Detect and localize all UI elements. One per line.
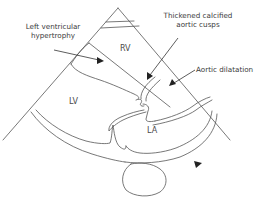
label-lv-hypertrophy-line2: hypertrophy: [22, 31, 84, 40]
lvh-arrowhead: [97, 57, 104, 64]
aortic-posterior-wall-1: [155, 97, 210, 121]
aortic-cusp-2: [143, 104, 155, 122]
label-aortic-dilatation: Aortic dilatation: [196, 65, 253, 74]
label-calcified-cusps: Thickened calcified aortic cusps: [160, 11, 236, 29]
aortic-dilatation-arrow-line: [174, 70, 195, 83]
aortic-cusp: [136, 99, 144, 106]
aortic-root-anterior-1: [141, 77, 155, 99]
chamber-label-lv: LV: [69, 97, 78, 106]
lvh-arrow-line: [54, 50, 99, 60]
label-lv-hypertrophy-line1: Left ventricular: [22, 22, 84, 31]
septum-lower: [71, 64, 139, 99]
chamber-label-la: LA: [147, 126, 157, 135]
pericardium-marker: [194, 161, 202, 168]
descending-aorta: [123, 163, 166, 196]
label-calcified-cusps-line2: aortic cusps: [160, 20, 236, 29]
echo-diagram: Left ventricular hypertrophy Thickened c…: [0, 0, 254, 200]
label-lv-hypertrophy: Left ventricular hypertrophy: [22, 22, 84, 40]
label-calcified-cusps-line1: Thickened calcified: [160, 11, 236, 20]
la-wall-outer: [125, 114, 217, 163]
mitral-leaflet-anterior: [109, 110, 146, 131]
cusps-arrowhead: [147, 72, 153, 80]
lv-posterior-wall-inner: [36, 110, 126, 149]
chest-wall-line-2: [101, 26, 139, 28]
cusps-arrow-line: [150, 38, 178, 75]
septum-upper: [71, 43, 89, 64]
chamber-label-rv: RV: [120, 44, 131, 53]
